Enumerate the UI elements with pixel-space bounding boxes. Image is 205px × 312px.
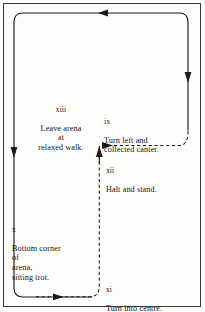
step-text-x: Bottom corner of arena, sitting trot.: [12, 244, 98, 282]
step-label-xiii: xiii Leave arena at relaxed walk.: [20, 96, 102, 162]
step-text-xiii: Leave arena at relaxed walk.: [20, 124, 102, 153]
step-number-ix: ix: [104, 118, 200, 127]
step-label-xi: xi Turn into centre.: [106, 276, 202, 312]
step-text-xii: Halt and stand.: [106, 185, 198, 195]
step-text-xi: Turn into centre.: [106, 304, 202, 312]
arrow-top-left-icon: [98, 10, 108, 17]
diagram-page: xiii Leave arena at relaxed walk. ix Tur…: [0, 0, 205, 312]
step-text-ix: Turn left and collected canter.: [104, 136, 200, 155]
arrow-left-down-icon: [11, 147, 18, 158]
step-number-xii: xii: [106, 167, 198, 176]
step-number-xiii: xiii: [20, 106, 102, 115]
arrow-right-down-icon: [185, 72, 192, 83]
step-number-xi: xi: [106, 286, 202, 295]
arrow-bottom-right-icon: [53, 294, 64, 301]
step-number-x: x: [12, 226, 98, 235]
step-label-xii: xii Halt and stand.: [106, 157, 198, 204]
step-label-x: x Bottom corner of arena, sitting trot.: [12, 216, 98, 292]
